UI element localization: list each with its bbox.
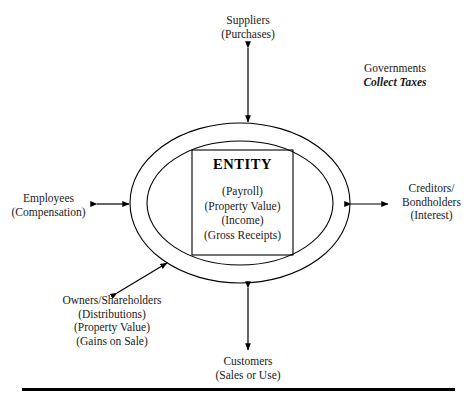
label-employees-detail: (Compensation): [0, 206, 97, 220]
label-creditors-detail: (Interest): [390, 209, 473, 223]
owners-arrow: [117, 263, 167, 293]
label-employees: Employees (Compensation): [0, 192, 97, 219]
label-customers-name: Customers: [188, 355, 308, 369]
label-customers-detail: (Sales or Use): [188, 369, 308, 383]
label-governments-detail: Collect Taxes: [330, 76, 460, 90]
entity-title: ENTITY: [192, 156, 293, 173]
label-suppliers-name: Suppliers: [188, 14, 308, 28]
label-owners: Owners/Shareholders (Distributions) (Pro…: [28, 294, 196, 348]
entity-item-gross-receipts: (Gross Receipts): [186, 228, 299, 243]
entity-tax-base-list: (Payroll) (Property Value) (Income) (Gro…: [186, 184, 299, 243]
label-customers: Customers (Sales or Use): [188, 355, 308, 382]
label-owners-detail-property-value: (Property Value): [28, 321, 196, 335]
entity-item-property-value: (Property Value): [186, 199, 299, 214]
label-governments-name: Governments: [330, 62, 460, 76]
entity-item-income: (Income): [186, 213, 299, 228]
label-governments: Governments Collect Taxes: [330, 62, 460, 89]
label-suppliers: Suppliers (Purchases): [188, 14, 308, 41]
label-suppliers-detail: (Purchases): [188, 28, 308, 42]
label-owners-detail-distributions: (Distributions): [28, 308, 196, 322]
label-owners-detail-gains-on-sale: (Gains on Sale): [28, 335, 196, 349]
label-owners-name: Owners/Shareholders: [28, 294, 196, 308]
bottom-divider: [22, 388, 455, 391]
label-creditors: Creditors/ Bondholders (Interest): [390, 182, 473, 223]
entity-stakeholder-diagram: ENTITY (Payroll) (Property Value) (Incom…: [0, 0, 473, 405]
label-employees-name: Employees: [0, 192, 97, 206]
label-creditors-name-line1: Creditors/: [390, 182, 473, 196]
label-creditors-name-line2: Bondholders: [390, 196, 473, 210]
entity-item-payroll: (Payroll): [186, 184, 299, 199]
